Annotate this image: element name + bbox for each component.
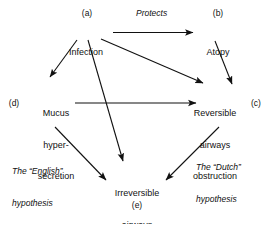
node-atopy: Atopy <box>193 26 243 79</box>
edge-label-dutch-hypothesis: The “Dutch” hypothesis <box>196 141 241 224</box>
edge-label-english-line-1: The “English” <box>12 166 63 177</box>
diagram-canvas: (a) Infection (b) Atopy (d) Mucus hyper-… <box>0 0 269 224</box>
node-atopy-line-1: Atopy <box>193 47 243 58</box>
edge-label-dutch-line-2: hypothesis <box>196 194 241 205</box>
edge-label-dutch-line-1: The “Dutch” <box>196 162 241 173</box>
node-tag-d: (d) <box>2 98 26 108</box>
edge-infection-to-reversible <box>101 39 203 83</box>
node-reversible-line-1: Reversible <box>186 108 244 119</box>
node-infection: Infection <box>56 26 116 79</box>
node-tag-a: (a) <box>74 8 100 18</box>
edge-label-english-line-2: hypothesis <box>12 198 63 209</box>
node-mucus-line-1: Mucus <box>27 108 85 119</box>
node-tag-b: (b) <box>205 8 231 18</box>
edge-label-protects: Protects <box>136 8 167 19</box>
node-infection-line-1: Infection <box>56 47 116 58</box>
node-irreversible-line-1: Irreversible <box>106 188 168 199</box>
node-tag-c: (c) <box>244 98 268 108</box>
node-irreversible-line-2: airways <box>106 220 168 225</box>
edge-label-english-hypothesis: The “English” hypothesis <box>12 145 63 224</box>
node-irreversible-obstruction: Irreversible airways obstruction <box>106 167 168 224</box>
node-tag-e: (e) <box>124 200 150 210</box>
